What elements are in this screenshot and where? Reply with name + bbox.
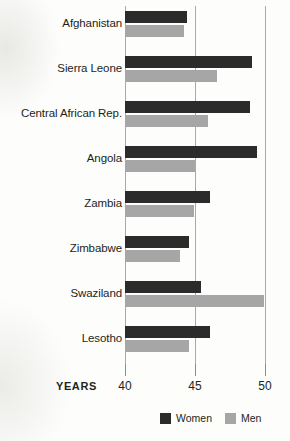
x-axis-labels: YEARS 40 45 50 [0,378,290,400]
bar-women [125,101,250,113]
x-tick-label-1: 45 [188,379,202,393]
legend-item-women: Women [160,412,212,424]
bar-men [125,205,194,217]
chart-row: Zimbabwe [0,231,290,276]
chart-row: Zambia [0,186,290,231]
category-label: Lesotho [4,332,122,344]
legend-label-men: Men [241,412,261,424]
life-expectancy-bar-chart: AfghanistanSierra LeoneCentral African R… [0,0,290,441]
chart-row: Afghanistan [0,6,290,51]
bar-men [125,340,189,352]
bar-rows: AfghanistanSierra LeoneCentral African R… [0,6,290,366]
chart-legend: Women Men [0,412,290,432]
bar-men [125,160,195,172]
x-axis-title: YEARS [56,380,97,392]
bar-women [125,146,257,158]
chart-row: Lesotho [0,321,290,366]
category-label: Swaziland [4,287,122,299]
bar-men [125,70,217,82]
category-label: Zimbabwe [4,242,122,254]
category-label: Central African Rep. [4,107,122,119]
chart-row: Angola [0,141,290,186]
bar-men [125,295,264,307]
chart-row: Sierra Leone [0,51,290,96]
legend-item-men: Men [225,412,261,424]
bar-women [125,236,189,248]
category-label: Zambia [4,197,122,209]
bar-women [125,281,201,293]
plot-area: AfghanistanSierra LeoneCentral African R… [0,0,290,376]
bar-men [125,25,184,37]
bar-women [125,191,210,203]
bar-men [125,115,208,127]
chart-row: Swaziland [0,276,290,321]
x-tick-label-2: 50 [258,379,272,393]
legend-label-women: Women [176,412,212,424]
bar-women [125,11,187,23]
bar-women [125,56,252,68]
bar-men [125,250,180,262]
legend-swatch-women-icon [160,413,171,424]
chart-row: Central African Rep. [0,96,290,141]
category-label: Sierra Leone [4,62,122,74]
x-tick-label-0: 40 [118,379,132,393]
legend-swatch-men-icon [225,413,236,424]
category-label: Angola [4,152,122,164]
bar-women [125,326,210,338]
category-label: Afghanistan [4,17,122,29]
